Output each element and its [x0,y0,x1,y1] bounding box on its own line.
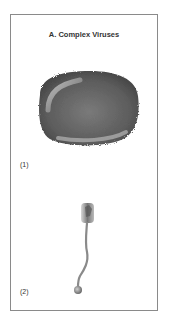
complex-virus-1-icon [39,71,139,146]
complex-virus-2-icon [74,203,94,294]
virus-illustrations [0,0,173,327]
